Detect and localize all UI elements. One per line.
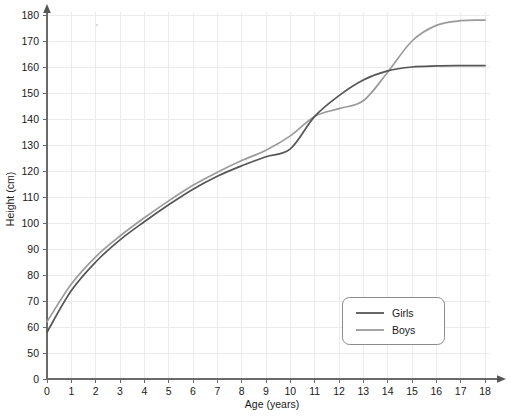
legend-label-girls: Girls <box>392 307 414 319</box>
legend-label-boys: Boys <box>392 324 415 336</box>
y-axis-ticks: 05060708090100110120130140150160170180 <box>21 9 47 385</box>
x-tick-label: 15 <box>406 385 418 397</box>
legend[interactable]: Girls Boys <box>343 298 445 345</box>
x-axis-ticks: 0123456789101112131415161718 <box>44 379 491 397</box>
x-axis-title: Age (years) <box>245 398 299 410</box>
x-axis-arrow-icon <box>497 375 506 383</box>
x-tick-label: 13 <box>357 385 369 397</box>
y-tick-label: 160 <box>21 61 39 73</box>
x-tick-label: 4 <box>141 385 147 397</box>
x-tick-label: 2 <box>93 385 99 397</box>
y-tick-label: 90 <box>27 243 39 255</box>
chart-canvas: 05060708090100110120130140150160170180 0… <box>0 0 511 416</box>
x-tick-label: 3 <box>117 385 123 397</box>
x-tick-label: 1 <box>68 385 74 397</box>
x-tick-label: 10 <box>284 385 296 397</box>
y-tick-label: 130 <box>21 139 39 151</box>
y-tick-label: 80 <box>27 269 39 281</box>
x-tick-label: 18 <box>479 385 491 397</box>
x-tick-label: 12 <box>333 385 345 397</box>
x-tick-label: 9 <box>263 385 269 397</box>
y-tick-label: 0 <box>33 373 39 385</box>
x-tick-label: 5 <box>166 385 172 397</box>
x-tick-label: 16 <box>430 385 442 397</box>
y-tick-label: 110 <box>22 191 39 203</box>
x-tick-label: 6 <box>190 385 196 397</box>
x-tick-label: 14 <box>382 385 394 397</box>
x-tick-label: 11 <box>309 385 320 397</box>
y-tick-label: 140 <box>21 113 39 125</box>
growth-chart: 05060708090100110120130140150160170180 0… <box>0 0 511 416</box>
y-tick-label: 170 <box>21 35 39 47</box>
y-tick-label: 100 <box>21 217 39 229</box>
y-tick-label: 70 <box>27 295 39 307</box>
y-axis-title: Height (cm) <box>4 172 16 226</box>
x-tick-label: 0 <box>44 385 50 397</box>
y-tick-label: 150 <box>21 87 39 99</box>
x-tick-label: 8 <box>239 385 245 397</box>
y-axis-arrow-icon <box>43 4 51 13</box>
y-tick-label: 180 <box>21 9 39 21</box>
y-tick-label: 50 <box>27 347 39 359</box>
decorative-speck <box>96 24 98 26</box>
x-tick-label: 7 <box>214 385 220 397</box>
y-tick-label: 60 <box>27 321 39 333</box>
y-tick-label: 120 <box>21 165 39 177</box>
legend-box <box>343 298 445 345</box>
x-tick-label: 17 <box>455 385 467 397</box>
